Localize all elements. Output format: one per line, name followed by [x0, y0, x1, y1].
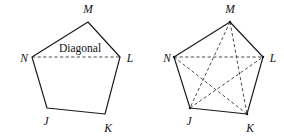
right-pentagon-group: MLKJN — [162, 3, 276, 134]
vertex-label-m: M — [82, 3, 94, 15]
vertex-label-j: J — [186, 115, 192, 127]
vertex-label-l: L — [126, 52, 133, 64]
figure-root: MLKJN Diagonal MLKJN — [0, 0, 284, 139]
vertex-label-n: N — [19, 52, 29, 64]
diagonal-caption: Diagonal — [59, 42, 101, 55]
right-pentagon-vertex-labels: MLKJN — [162, 3, 276, 134]
vertex-dot-k — [246, 113, 249, 116]
diagonal-jl — [190, 57, 263, 108]
left-pentagon-group: MLKJN Diagonal — [19, 3, 133, 134]
vertex-label-j: J — [43, 115, 49, 127]
vertex-dot-j — [189, 107, 192, 110]
diagonal-nk — [174, 57, 247, 114]
vertex-label-k: K — [245, 122, 255, 134]
vertex-label-m: M — [224, 3, 236, 15]
diagonal-mk — [230, 22, 247, 114]
right-pentagon-outline — [174, 22, 263, 114]
vertex-dot-n — [173, 56, 176, 59]
pentagon-diagram-canvas: MLKJN Diagonal MLKJN — [0, 0, 284, 139]
vertex-label-n: N — [162, 52, 172, 64]
vertex-label-l: L — [269, 52, 276, 64]
vertex-dot-m — [229, 21, 232, 24]
left-pentagon-outline — [32, 22, 120, 114]
vertex-dot-l — [262, 56, 265, 59]
vertex-label-k: K — [103, 122, 113, 134]
left-pentagon-vertex-labels: MLKJN — [19, 3, 133, 134]
